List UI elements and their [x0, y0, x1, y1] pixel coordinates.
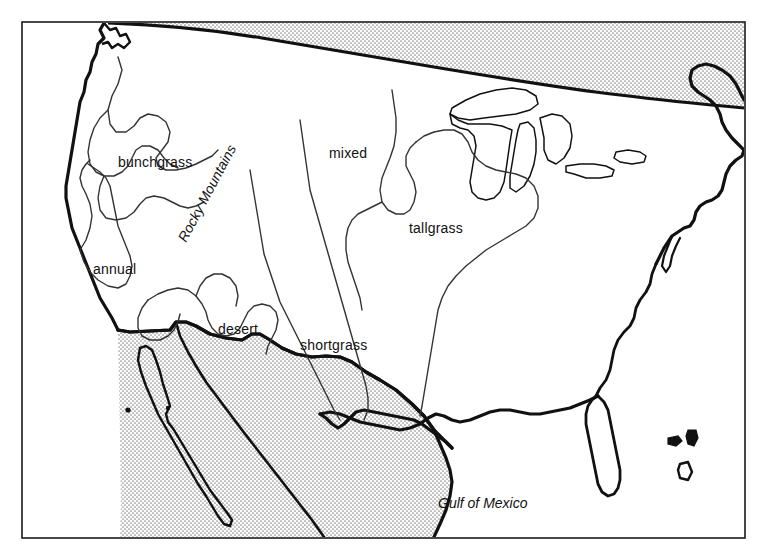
- map-figure: bunchgrass annual desert mixed shortgras…: [0, 0, 769, 558]
- label-shortgrass: shortgrass: [300, 337, 367, 353]
- map-canvas: bunchgrass annual desert mixed shortgras…: [0, 0, 769, 558]
- label-annual: annual: [93, 261, 136, 277]
- label-tallgrass: tallgrass: [409, 220, 463, 236]
- label-gulf-of-mexico: Gulf of Mexico: [438, 495, 528, 511]
- label-bunchgrass: bunchgrass: [118, 154, 192, 170]
- label-mixed: mixed: [329, 145, 367, 161]
- label-desert: desert: [218, 321, 258, 337]
